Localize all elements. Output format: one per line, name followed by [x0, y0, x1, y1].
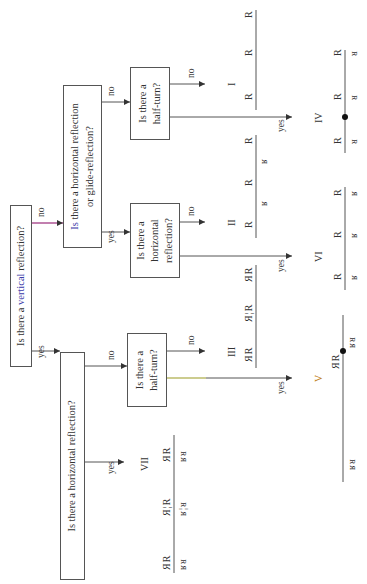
pattern-IV-glyph: R [332, 136, 343, 144]
pattern-III-glyph: Я¦R [243, 304, 254, 322]
pattern-VI-glyph: ʁ [348, 274, 359, 280]
pattern-IV-glyph: ᴚ [348, 94, 359, 100]
decision-vertical-reflection: Is there a vertical reflection? [10, 205, 32, 367]
pattern-IV-glyph: ᴚ [348, 138, 359, 144]
decision-half-turn-top: Is there a half-turn? [130, 67, 170, 140]
pattern-VII-glyph: ʁᴚ [177, 559, 188, 570]
decision-horizontal-or-glide: Is there a horizontal reflection or glid… [63, 85, 102, 248]
edge-label-yes: yes [276, 381, 286, 394]
outcome-V: V [313, 375, 324, 382]
pattern-V-glyph: ʁᴚ [346, 337, 357, 348]
pattern-VII-glyph: ЯR [161, 447, 172, 462]
text-segment: Is there a [134, 218, 148, 263]
edge-label-yes: yes [36, 345, 46, 358]
pattern-III-glyph: ЯR [243, 347, 254, 362]
edge-label-no: no [186, 336, 196, 346]
pattern-III-glyph: ЯR [243, 267, 254, 282]
edge-label-yes: yes [106, 461, 116, 474]
edge-label-yes: yes [106, 230, 116, 243]
text-segment: half-turn? [147, 349, 161, 390]
decision-half-turn-bottom: Is there a half-turn? [127, 333, 167, 407]
text-segment: half-turn? [150, 83, 164, 124]
half-turn-center-dot [340, 348, 346, 354]
pattern-IV-glyph: R [332, 92, 343, 100]
decision-horizontal-reflection-mid: Is there a horizontal reflection? [130, 203, 180, 278]
decision-text: Is there a half-turn? [136, 83, 164, 124]
pattern-V-glyph: ʁᴚ [346, 459, 357, 470]
pattern-V-glyph: ЯR [330, 354, 341, 369]
edge-label-no: no [186, 69, 196, 79]
edge-label-no: no [36, 208, 46, 218]
text-segment: or glide-reflection? [83, 103, 97, 230]
edge-label-yes: yes [276, 259, 286, 272]
pattern-VI-glyph: R [332, 188, 343, 196]
flowchart-canvas: Is there a vertical reflection? Is there… [0, 0, 367, 584]
edge-label-yes: yes [276, 119, 286, 132]
outcome-VI: VI [313, 251, 324, 262]
pattern-VII-glyph: ʁ¦ᴚ [177, 502, 188, 516]
decision-horizontal-reflection-left: Is there a horizontal reflection? [60, 352, 85, 580]
pattern-IV-glyph: ᴚ [348, 50, 359, 56]
highlighted-word: Is [69, 222, 80, 230]
pattern-VII-glyph: ЯR [161, 555, 172, 570]
pattern-II-glyph: R [243, 178, 254, 186]
decision-text: Is there a horizontal reflection? [134, 218, 177, 263]
decision-text: Is there a horizontal reflection? [65, 400, 79, 531]
edge-label-no: no [106, 87, 116, 97]
pattern-II-glyph: ʁ [258, 200, 269, 206]
pattern-VI-glyph: ʁ [348, 190, 359, 196]
half-turn-center-dot [342, 114, 348, 120]
outcome-I: I [226, 83, 237, 86]
pattern-VII-glyph: ʁᴚ [177, 451, 188, 462]
pattern-II-glyph: R [243, 136, 254, 144]
decision-text: Is there a horizontal reflection or glid… [68, 103, 96, 230]
highlighted-word: vertical [15, 273, 26, 304]
text-segment: horizontal [148, 218, 162, 263]
pattern-I-glyph: R [243, 48, 254, 56]
outcome-II: II [226, 219, 237, 226]
text-segment: Is there a [15, 305, 26, 346]
text-segment: reflection? [162, 218, 176, 263]
text-segment: reflection? [15, 226, 26, 274]
connector-lines [0, 0, 367, 584]
text-segment: Is there a [136, 83, 150, 124]
decision-text: Is there a vertical reflection? [14, 226, 28, 346]
pattern-VI-glyph: R [332, 230, 343, 238]
pattern-IV-glyph: R [332, 48, 343, 56]
outcome-VII: VII [139, 457, 150, 471]
edge-label-no: no [186, 207, 196, 217]
text-segment: Is there a [133, 349, 147, 390]
outcome-III: III [226, 347, 237, 357]
pattern-VII-glyph: Я¦R [161, 498, 172, 516]
pattern-VI-glyph: R [332, 272, 343, 280]
edge-label-no: no [106, 351, 116, 361]
pattern-I-glyph: R [243, 92, 254, 100]
pattern-II-glyph: R [243, 220, 254, 228]
outcome-IV: IV [313, 112, 324, 123]
pattern-I-glyph: R [243, 10, 254, 18]
pattern-VI-glyph: ʁ [348, 232, 359, 238]
text-segment: there a horizontal reflection [69, 103, 80, 222]
decision-text: Is there a half-turn? [133, 349, 161, 390]
pattern-II-glyph: ʁ [258, 158, 269, 164]
